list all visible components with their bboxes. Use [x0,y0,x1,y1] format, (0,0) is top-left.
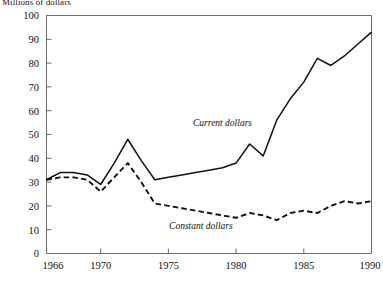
plot-frame [47,16,372,254]
x-tick-label: 1990 [360,260,381,271]
line-chart-plot: 0102030405060708090100 19661970197519801… [0,0,383,282]
series-line-current-dollars [47,32,372,184]
y-axis-tick-labels: 0102030405060708090100 [23,10,39,259]
y-tick-label: 100 [23,10,39,21]
x-axis-tick-labels: 196619701975198019851990 [43,260,381,271]
y-tick-label: 40 [29,153,40,164]
y-tick-label: 50 [29,129,40,140]
x-tick-label: 1985 [293,260,314,271]
series-line-constant-dollars [47,163,372,220]
y-axis-ticks [47,16,52,230]
x-tick-label: 1980 [226,260,247,271]
y-tick-label: 20 [29,201,40,212]
x-tick-label: 1966 [43,260,64,271]
series-label-constant-dollars: Constant dollars [169,221,233,231]
y-tick-label: 90 [29,34,40,45]
series-label-current-dollars: Current dollars [193,118,252,128]
y-tick-label: 10 [29,225,40,236]
x-tick-label: 1975 [158,260,179,271]
y-tick-label: 30 [29,177,40,188]
y-tick-label: 60 [29,106,40,117]
x-tick-label: 1970 [90,260,111,271]
x-axis-ticks [101,249,304,254]
y-tick-label: 70 [29,82,40,93]
y-tick-label: 80 [29,58,40,69]
chart-figure: Millions of dollars 01020304050607080901… [0,0,383,282]
y-tick-label: 0 [34,248,39,259]
